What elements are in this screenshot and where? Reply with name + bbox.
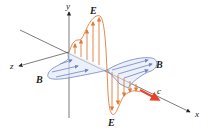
b-field-label-right: B (155, 59, 163, 70)
em-wave-diagram: y z x E E B B c (0, 0, 213, 133)
x-axis-label: x (194, 109, 199, 119)
b-field-label-left: B (35, 74, 43, 85)
z-axis-label: z (9, 61, 14, 71)
e-field-label-bottom: E (107, 117, 115, 128)
speed-label: c (157, 86, 161, 96)
magnetic-field-wave (48, 52, 157, 88)
y-axis-label: y (65, 1, 70, 11)
e-field-label-top: E (89, 5, 97, 16)
